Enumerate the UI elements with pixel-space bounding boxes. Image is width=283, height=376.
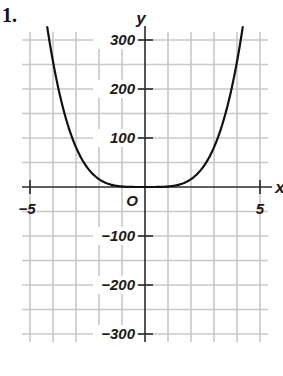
y-tick-label: −100 bbox=[101, 227, 135, 244]
y-tick-label: −200 bbox=[101, 276, 135, 293]
y-tick-label: 300 bbox=[110, 31, 136, 48]
x-tick-label: −5 bbox=[18, 200, 36, 217]
x-axis-label: x bbox=[274, 178, 283, 197]
y-tick-label: 200 bbox=[109, 80, 136, 97]
y-tick-label: −300 bbox=[101, 325, 135, 342]
chart: 300200100−100−200−300−55Oxy bbox=[0, 0, 283, 376]
origin-label: O bbox=[126, 192, 138, 209]
x-tick-label: 5 bbox=[256, 200, 265, 217]
y-axis-label: y bbox=[135, 9, 147, 28]
y-tick-label: 100 bbox=[110, 129, 136, 146]
axis-labels: 300200100−100−200−300−55Oxy bbox=[18, 9, 283, 343]
